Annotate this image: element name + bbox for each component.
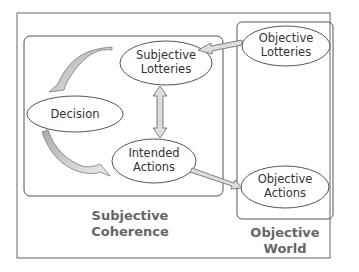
label-line: Coherence [80, 224, 180, 240]
arrow-decision-to-intended [42, 130, 110, 176]
group-label-objective-world: Objective World [240, 225, 330, 257]
arrow-intended-to-objact [190, 168, 242, 189]
label-line: World [240, 241, 330, 257]
label-subjective-lotteries: Subjective Lotteries [120, 48, 212, 76]
label-decision: Decision [27, 107, 123, 121]
arrow-sublot-to-decision [49, 47, 112, 92]
label-objective-actions: Objective Actions [241, 172, 329, 200]
label-line: Subjective [120, 48, 212, 62]
label-line: Objective [241, 172, 329, 186]
label-line: Actions [241, 186, 329, 200]
label-line: Subjective [80, 208, 180, 224]
label-line: Lotteries [120, 62, 212, 76]
arrow-bidirectional [153, 86, 167, 138]
label-objective-lotteries: Objective Lotteries [242, 31, 330, 59]
label-line: Intended [112, 146, 196, 160]
group-label-subjective-coherence: Subjective Coherence [80, 208, 180, 240]
label-line: Lotteries [242, 45, 330, 59]
label-line: Objective [240, 225, 330, 241]
label-intended-actions: Intended Actions [112, 146, 196, 174]
label-line: Actions [112, 160, 196, 174]
label-line: Objective [242, 31, 330, 45]
